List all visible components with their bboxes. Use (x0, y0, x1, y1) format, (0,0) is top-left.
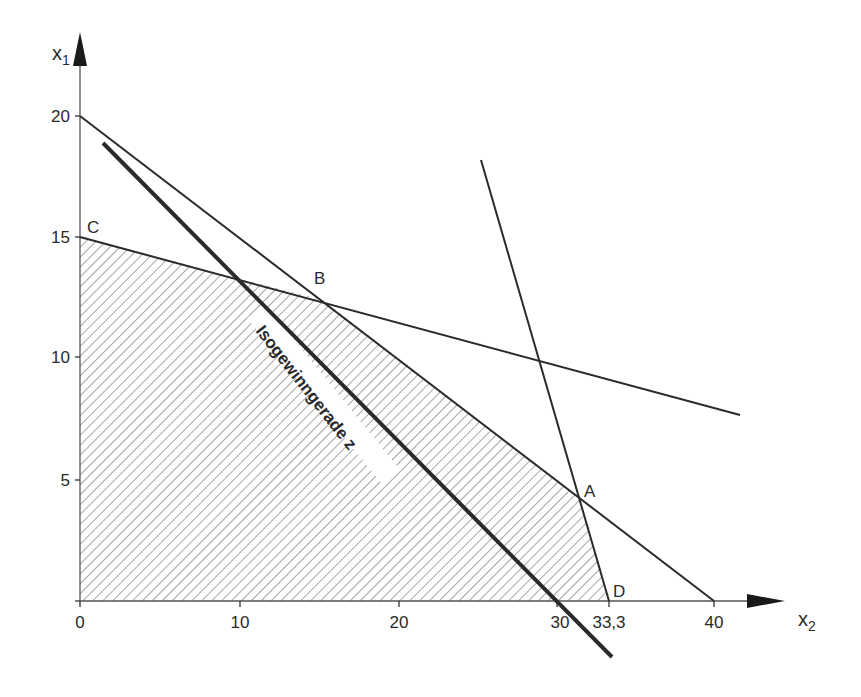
x-tick-label-10: 10 (231, 613, 250, 632)
y-tick-label-5: 5 (61, 471, 70, 490)
vertex-label-b: B (314, 269, 325, 288)
y-axis-arrow-icon (73, 32, 87, 66)
x-axis-label-main: x (798, 608, 808, 630)
vertex-label-d: D (613, 582, 625, 601)
y-tick-label-20: 20 (51, 107, 70, 126)
y-axis-label-main: x (52, 42, 62, 64)
x-tick-label-40: 40 (705, 613, 724, 632)
y-ticks (75, 116, 80, 601)
x-tick-label-33-3: 33,3 (592, 613, 625, 632)
y-tick-label-10: 10 (51, 348, 70, 367)
x-ticks (80, 601, 714, 607)
y-tick-label-15: 15 (51, 228, 70, 247)
vertex-label-c: C (87, 218, 99, 237)
x-axis-label-sub: 2 (808, 618, 816, 634)
x-tick-label-20: 20 (390, 613, 409, 632)
lp-diagram: 20 15 10 5 0 10 20 30 33,3 40 x1 x2 C B … (0, 0, 861, 697)
x-tick-label-0: 0 (75, 613, 84, 632)
y-axis-label-sub: 1 (62, 52, 70, 68)
x-axis-label: x2 (798, 608, 816, 634)
x-tick-label-30: 30 (551, 613, 570, 632)
x-axis-arrow-icon (747, 594, 785, 608)
vertex-label-a: A (584, 482, 596, 501)
y-axis-label: x1 (52, 42, 70, 68)
